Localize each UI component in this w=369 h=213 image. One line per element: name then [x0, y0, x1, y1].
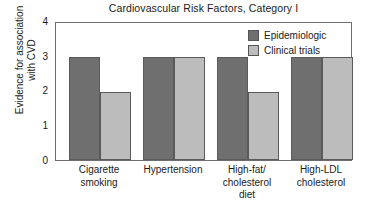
y-tick-label-3: 3 — [34, 52, 48, 62]
x-cat-label-high-ldl-cholesterol: High-LDL cholesterol — [277, 164, 365, 189]
y-tick-label-4: 4 — [34, 17, 48, 27]
bar-high-ldl-cholesterol-epidemiologic[interactable] — [291, 57, 322, 160]
legend-swatch-icon-clinical-trials — [248, 45, 259, 56]
x-cat-label-line: diet — [203, 189, 291, 202]
y-tick-label-1: 1 — [34, 121, 48, 131]
y-tick-label-2: 2 — [34, 86, 48, 96]
legend-label-clinical-trials: Clinical trials — [264, 45, 320, 56]
bar-hypertension-clinical-trials[interactable] — [174, 57, 205, 160]
bar-high-ldl-cholesterol-clinical-trials[interactable] — [322, 57, 353, 160]
legend-item-epidemiologic[interactable]: Epidemiologic — [248, 28, 348, 42]
bar-group-hypertension — [143, 23, 203, 160]
chart-legend: Epidemiologic Clinical trials — [248, 28, 348, 58]
legend-label-epidemiologic: Epidemiologic — [264, 30, 326, 41]
bar-cigarette-smoking-epidemiologic[interactable] — [69, 57, 100, 160]
y-tick-label-0: 0 — [34, 156, 48, 166]
bar-hypertension-epidemiologic[interactable] — [143, 57, 174, 160]
bar-high-fat-cholesterol-diet-epidemiologic[interactable] — [217, 57, 248, 160]
y-axis-title-line-1: Evidence for association — [14, 0, 26, 134]
legend-swatch-icon-epidemiologic — [248, 30, 259, 41]
x-cat-label-line: smoking — [55, 177, 143, 190]
x-cat-label-line: cholesterol — [277, 177, 365, 190]
bar-high-fat-cholesterol-diet-clinical-trials[interactable] — [248, 92, 279, 161]
legend-item-clinical-trials[interactable]: Clinical trials — [248, 43, 348, 57]
bar-cigarette-smoking-clinical-trials[interactable] — [100, 92, 131, 161]
bar-group-cigarette-smoking — [69, 23, 129, 160]
x-cat-label-line: High-LDL — [277, 164, 365, 177]
chart-title: Cardiovascular Risk Factors, Category I — [55, 2, 352, 14]
bar-chart-figure: Cardiovascular Risk Factors, Category I … — [0, 0, 369, 213]
x-axis-labels: Cigarette smoking Hypertension High-fat/… — [55, 164, 352, 210]
